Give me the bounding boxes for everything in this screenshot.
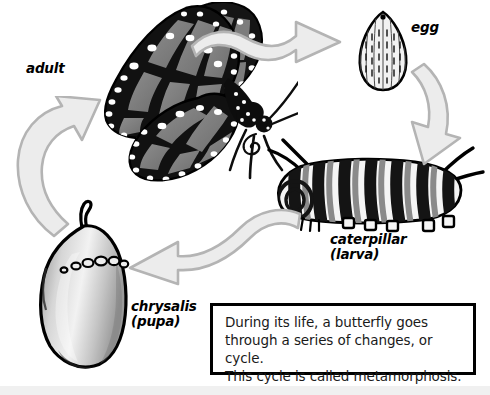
arrow-adult-to-egg: [188, 8, 350, 70]
bottom-edge-strip: [0, 386, 490, 395]
arrow-caterpillar-to-chrysalis: [122, 198, 304, 286]
stage-label-egg: egg: [411, 20, 439, 35]
stage-label-caterpillar: caterpillar (larva): [330, 232, 407, 262]
arrow-egg-to-caterpillar: [398, 58, 468, 170]
caption-text: During its life, a butterfly goes throug…: [225, 314, 469, 386]
butterfly-life-cycle-diagram: adult egg caterpillar (larva) chrysalis …: [0, 0, 490, 395]
stage-label-chrysalis: chrysalis (pupa): [131, 299, 197, 329]
caption-box: During its life, a butterfly goes throug…: [210, 303, 476, 375]
arrow-chrysalis-to-adult: [2, 96, 104, 244]
stage-label-adult: adult: [26, 61, 64, 76]
